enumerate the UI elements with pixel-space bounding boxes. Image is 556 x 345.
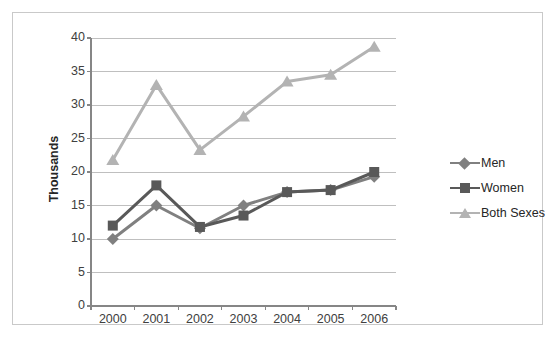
plot-area bbox=[91, 38, 396, 306]
legend-item-men[interactable]: Men bbox=[450, 150, 550, 175]
data-point-marker-square bbox=[151, 180, 161, 190]
data-point-marker-square bbox=[282, 187, 292, 197]
y-axis-tick-label: 25 bbox=[59, 132, 85, 145]
y-axis-tick-label: 35 bbox=[59, 65, 85, 78]
data-point-marker-triangle bbox=[150, 79, 163, 90]
chart-plot-svg bbox=[91, 38, 396, 306]
legend-marker-icon bbox=[450, 156, 480, 170]
series-line bbox=[113, 47, 374, 160]
data-point-marker-triangle bbox=[106, 154, 119, 165]
series-men bbox=[107, 171, 380, 245]
legend-item-both-sexes[interactable]: Both Sexes bbox=[450, 200, 550, 225]
legend-item-label: Both Sexes bbox=[480, 206, 545, 220]
x-axis-tick-label: 2005 bbox=[306, 313, 356, 326]
y-axis-tick-label: 40 bbox=[59, 31, 85, 44]
chart-legend: MenWomenBoth Sexes bbox=[450, 150, 550, 225]
data-point-marker-diamond bbox=[238, 200, 250, 212]
x-axis-tick-label: 2002 bbox=[175, 313, 225, 326]
data-point-marker-triangle bbox=[368, 41, 381, 52]
legend-item-label: Men bbox=[480, 156, 505, 170]
x-axis-tick-label: 2004 bbox=[262, 313, 312, 326]
data-point-marker-square bbox=[195, 222, 205, 232]
legend-diamond-icon bbox=[458, 157, 471, 170]
legend-marker-icon bbox=[450, 181, 480, 195]
legend-item-label: Women bbox=[480, 181, 524, 195]
x-axis-tick-label: 2003 bbox=[219, 313, 269, 326]
x-axis-tick-labels: 2000200120022003200420052006 bbox=[91, 313, 396, 333]
chart-frame: Thousands 0510152025303540 2000200120022… bbox=[12, 12, 543, 325]
x-axis-tick-label: 2006 bbox=[349, 313, 399, 326]
legend-item-women[interactable]: Women bbox=[450, 175, 550, 200]
data-point-marker-square bbox=[369, 167, 379, 177]
legend-triangle-icon bbox=[459, 208, 471, 218]
legend-marker-icon bbox=[450, 206, 480, 220]
y-axis-tick-label: 5 bbox=[59, 266, 85, 279]
data-point-marker-square bbox=[239, 211, 249, 221]
series-women bbox=[108, 167, 379, 232]
series-both-sexes bbox=[106, 41, 380, 165]
legend-square-icon bbox=[460, 183, 470, 193]
y-axis-tick-labels: 0510152025303540 bbox=[59, 38, 85, 306]
data-point-marker-square bbox=[326, 185, 336, 195]
y-axis-tick-label: 30 bbox=[59, 98, 85, 111]
y-axis-tick-label: 10 bbox=[59, 232, 85, 245]
y-axis-tick-label: 0 bbox=[59, 299, 85, 312]
y-axis-tick-label: 20 bbox=[59, 165, 85, 178]
x-axis-tick-label: 2000 bbox=[88, 313, 138, 326]
data-point-marker-square bbox=[108, 221, 118, 231]
y-axis-tick-label: 15 bbox=[59, 199, 85, 212]
x-axis-tick-label: 2001 bbox=[131, 313, 181, 326]
